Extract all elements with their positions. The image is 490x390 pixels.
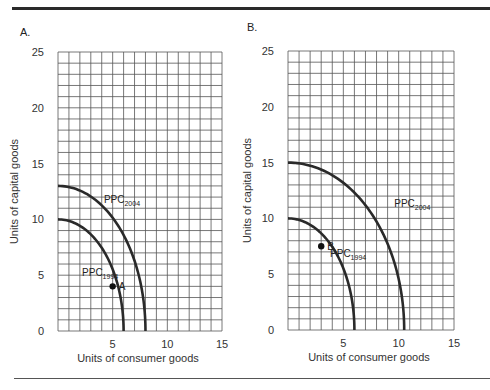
point-a-label: A (119, 281, 126, 292)
y-tick-label: 10 (262, 212, 274, 224)
x-tick-label: 15 (216, 338, 228, 350)
y-tick-label: 5 (38, 269, 44, 281)
y-tick-label: 25 (262, 45, 274, 57)
chart-b: 051015202551015Units of consumer goodsUn… (241, 45, 460, 363)
x-tick-label: 15 (448, 337, 460, 349)
ppc-curve-2004 (288, 163, 404, 330)
y-tick-label: 15 (262, 157, 274, 169)
x-axis-title: Units of consumer goods (308, 351, 430, 363)
point-b-label: B (327, 241, 334, 252)
grid (288, 51, 454, 330)
bottom-rule (14, 378, 490, 379)
y-axis-title: Units of capital goods (241, 137, 253, 243)
y-tick-label: 20 (32, 102, 44, 114)
y-tick-label: 25 (32, 46, 44, 58)
point-a-marker (109, 283, 115, 289)
curve-label-1994: PPC1994 (330, 248, 366, 261)
y-tick-label: 15 (32, 158, 44, 170)
y-tick-label: 5 (268, 268, 274, 280)
x-tick-label: 10 (393, 337, 405, 349)
x-tick-label: 5 (340, 337, 346, 349)
x-tick-label: 10 (161, 338, 173, 350)
y-tick-label: 10 (32, 213, 44, 225)
x-tick-label: 5 (110, 338, 116, 350)
y-tick-label: 0 (268, 324, 274, 336)
x-axis-title: Units of consumer goods (77, 352, 199, 364)
y-tick-label: 20 (262, 101, 274, 113)
y-tick-label: 0 (38, 325, 44, 337)
curve-label-2004: PPC2004 (394, 198, 430, 211)
y-axis-title: Units of capital goods (8, 138, 20, 244)
charts-canvas: 051015202551015Units of consumer goodsUn… (0, 0, 490, 390)
point-b-marker (318, 243, 324, 249)
chart-a: 051015202551015Units of consumer goodsUn… (8, 46, 228, 364)
